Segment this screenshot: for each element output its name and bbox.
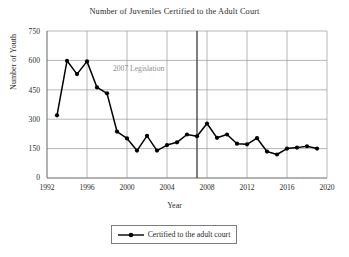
legend-label-certified: Certified to the adult court bbox=[148, 230, 231, 239]
series-markers-certified bbox=[55, 59, 319, 157]
chart-container: Number of Juveniles Certified to the Adu… bbox=[0, 0, 349, 257]
legend: Certified to the adult court bbox=[111, 225, 237, 244]
legend-marker-icon bbox=[118, 230, 144, 240]
grid-lines bbox=[47, 31, 327, 178]
series-line-certified bbox=[57, 61, 317, 155]
plot-area bbox=[0, 0, 349, 257]
